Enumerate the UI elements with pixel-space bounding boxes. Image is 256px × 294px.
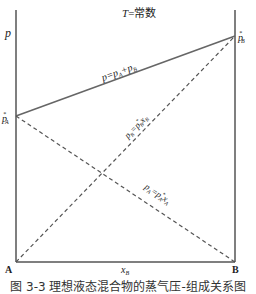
total-pressure-line — [16, 36, 235, 116]
partial-pressure-b-label: pB=p*BxB — [121, 111, 151, 141]
figure-caption: 图 3-3 理想液态混合物的蒸气压-组成关系图 — [0, 280, 256, 294]
svg-text:pB=p*BxB: pB=p*BxB — [121, 111, 151, 141]
corner-label-b: B — [232, 264, 239, 275]
x-axis-label: xB — [120, 264, 129, 276]
svg-text:p=pA+pB: p=pA+pB — [99, 60, 138, 84]
diagram-title: T=常数 — [122, 7, 156, 19]
right-intercept-label: p*B — [237, 30, 245, 44]
total-pressure-label: p=pA+pB — [99, 60, 138, 84]
corner-label-a: A — [5, 264, 13, 275]
y-axis-label: p — [4, 26, 11, 40]
left-intercept-label: p*A — [1, 111, 9, 125]
